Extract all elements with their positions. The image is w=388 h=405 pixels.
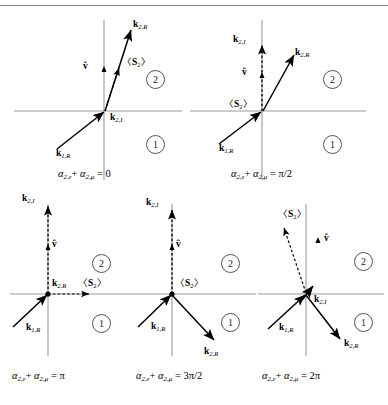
vhat-tick — [102, 66, 107, 72]
panel-5: 〈S2〉 v̂ k2,I k1,R k2,R 2 1 — [258, 196, 388, 366]
panel-2-graphic — [194, 8, 388, 188]
region-label-2: 2 — [354, 252, 373, 271]
region-1-text: 1 — [228, 317, 233, 328]
region-1-text: 1 — [361, 317, 366, 328]
region-label-2: 2 — [221, 254, 240, 273]
region-2-text: 2 — [99, 258, 104, 269]
panel-5-graphic — [258, 196, 388, 366]
vhat-tick — [316, 237, 321, 243]
region-label-1: 1 — [92, 314, 111, 333]
label-spin-S2: 〈S2〉 — [224, 100, 253, 110]
vector-spin-S2 — [284, 228, 306, 293]
region-1-text: 1 — [330, 139, 335, 150]
label-k1R: k1,R — [219, 144, 233, 154]
region-2-text: 2 — [361, 256, 366, 267]
label-k1R: k1,R — [26, 323, 40, 333]
panel-4-caption: α2,ε+ α2,μ = 3π/2 — [136, 370, 202, 383]
label-k2R: k2,R — [204, 347, 218, 357]
region-label-2: 2 — [92, 254, 111, 273]
label-k1R: k1,R — [56, 149, 70, 159]
label-spin-S2: 〈S2〉 — [175, 279, 204, 289]
vhat-tick — [46, 244, 51, 250]
label-spin-S2: 〈S2〉 — [278, 210, 307, 220]
region-label-2: 2 — [146, 70, 165, 89]
region-label-1: 1 — [323, 135, 342, 154]
label-vhat: v̂ — [52, 240, 57, 250]
label-k2R: k2,R — [295, 48, 309, 58]
region-2-text: 2 — [330, 74, 335, 85]
region-1-text: 1 — [153, 139, 158, 150]
panel-1-caption: α2,ε+ α2,μ = 0 — [58, 168, 111, 181]
region-1-text: 1 — [99, 318, 104, 329]
figure-root: k2,R 〈S2〉 v̂ k2,I k1,R 2 1 α2,ε+ α2,μ = … — [0, 0, 388, 405]
label-k1R: k1,R — [151, 322, 165, 332]
label-vhat: v̂ — [242, 68, 247, 78]
label-k2I: k2,I — [110, 113, 122, 123]
label-vhat: v̂ — [324, 234, 329, 244]
label-vhat: v̂ — [83, 62, 88, 72]
panel-3: k2,I v̂ k2,R 〈S2〉 k1,R 2 1 — [0, 196, 130, 366]
panel-2: k2,I k2,R v̂ 〈S2〉 k1,R 2 1 — [194, 8, 388, 188]
region-label-1: 1 — [221, 313, 240, 332]
label-spin-S2: 〈S2〉 — [122, 58, 151, 68]
vector-k2R — [105, 30, 131, 111]
panel-4: k2,I v̂ 〈S2〉 k1,R k2,R 2 1 — [130, 196, 258, 366]
vector-k2R — [172, 295, 214, 340]
label-k2I: k2,I — [233, 35, 245, 45]
vector-k1R — [57, 112, 104, 149]
vector-k1R — [219, 112, 261, 144]
label-k2R: k2,R — [344, 339, 358, 349]
label-k1R: k1,R — [279, 323, 293, 333]
vhat-tick — [170, 244, 175, 250]
label-k2R: k2,R — [52, 279, 66, 289]
vector-spin-S2-point — [169, 291, 174, 296]
label-k2I: k2,I — [22, 194, 34, 204]
region-label-1: 1 — [146, 135, 165, 154]
label-spin-S2: 〈S2〉 — [78, 279, 107, 289]
panel-5-caption: α2,ε+ α2,μ = 2π — [262, 370, 320, 383]
panel-2-caption: α2,ε+ α2,μ = π/2 — [231, 168, 292, 181]
panel-1: k2,R 〈S2〉 v̂ k2,I k1,R 2 1 — [0, 8, 194, 188]
panel-1-graphic — [0, 8, 194, 188]
region-label-1: 1 — [354, 313, 373, 332]
label-k2I: k2,I — [146, 198, 158, 208]
vhat-tick — [260, 72, 265, 78]
region-label-2: 2 — [323, 70, 342, 89]
top-border-rule — [0, 5, 388, 6]
vector-k2R-point — [45, 291, 50, 296]
region-2-text: 2 — [228, 258, 233, 269]
vector-k2R — [263, 55, 294, 111]
label-k2R: k2,R — [133, 20, 147, 30]
panel-3-caption: α2,ε+ α2,μ = π — [12, 370, 65, 383]
region-2-text: 2 — [153, 74, 158, 85]
label-k2I: k2,I — [314, 295, 326, 305]
label-vhat: v̂ — [176, 240, 181, 250]
